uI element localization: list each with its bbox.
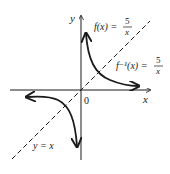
x-axis-label: x — [142, 93, 148, 105]
finv-label-numerator: 5 — [156, 55, 161, 65]
f-label-numerator: 5 — [125, 16, 130, 26]
y-axis-label: y — [69, 12, 75, 24]
origin-label: 0 — [84, 95, 89, 106]
f-label-lhs: f(x) = — [94, 21, 117, 33]
f-label-denominator: x — [124, 27, 129, 37]
finv-label-lhs: f⁻¹(x) = — [116, 60, 147, 72]
graph-canvas: y x 0 f(x) = 5 x f⁻¹(x) = 5 x y = x — [0, 0, 170, 174]
finv-label-denominator: x — [155, 66, 160, 76]
curve-quadrant-3 — [27, 96, 77, 146]
identity-line-label: y = x — [32, 140, 54, 151]
